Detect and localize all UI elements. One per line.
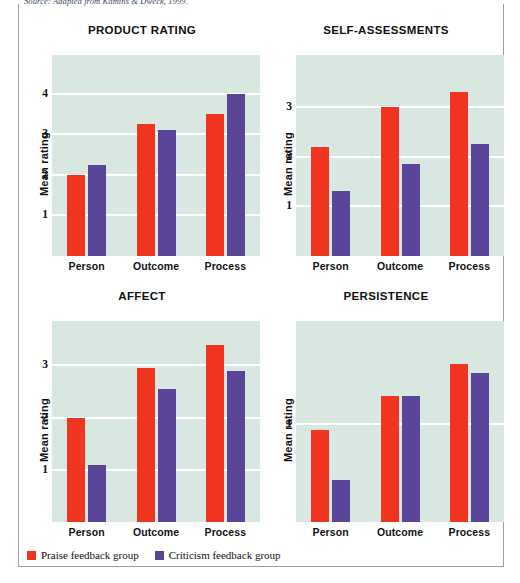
bar-person-criticism <box>332 480 350 522</box>
bar-process-praise <box>206 114 224 256</box>
panel-persistence: PERSISTENCE Mean rating Person Outcome P… <box>268 290 504 546</box>
y-tick-label: 2 <box>42 169 48 181</box>
x-label: Person <box>52 260 121 272</box>
y-tick-label: 2 <box>42 412 48 424</box>
x-label: Person <box>52 526 121 538</box>
x-label: Process <box>435 260 504 272</box>
plot-area <box>296 55 504 256</box>
bar-outcome-criticism <box>158 130 176 256</box>
y-axis-label: Mean rating <box>38 132 50 196</box>
chart-grid: PRODUCT RATING Mean rating Person Outcom… <box>0 0 520 545</box>
plot-area <box>52 321 260 522</box>
x-label: Outcome <box>365 526 434 538</box>
x-label: Process <box>191 260 260 272</box>
y-tick-label: 1 <box>42 464 48 476</box>
bar-person-praise <box>311 430 329 522</box>
x-label: Process <box>435 526 504 538</box>
plot-area <box>296 321 504 522</box>
bar-process-criticism <box>471 373 489 522</box>
legend-label: Criticism feedback group <box>169 549 281 561</box>
y-tick-label: 1 <box>286 418 292 430</box>
y-tick-label: 4 <box>42 88 48 100</box>
x-axis-labels: Person Outcome Process <box>52 260 260 272</box>
y-tick-label: 3 <box>42 128 48 140</box>
bar-person-praise <box>67 418 85 522</box>
bar-person-criticism <box>332 191 350 256</box>
y-axis-label: Mean rating <box>282 132 294 196</box>
x-label: Outcome <box>121 526 190 538</box>
y-tick-label: 3 <box>42 360 48 372</box>
y-tick-label: 2 <box>286 151 292 163</box>
bar-person-criticism <box>88 165 106 256</box>
gridline <box>296 106 504 108</box>
praise-swatch-icon <box>27 551 36 560</box>
bar-outcome-criticism <box>402 396 420 522</box>
legend-item-criticism: Criticism feedback group <box>155 549 281 561</box>
bar-process-criticism <box>227 371 245 522</box>
bar-outcome-praise <box>381 107 399 256</box>
y-tick-label: 3 <box>286 101 292 113</box>
bar-process-criticism <box>471 144 489 256</box>
panel-self-assessments: SELF-ASSESSMENTS Mean rating Person Outc… <box>268 24 504 280</box>
panel-title: SELF-ASSESSMENTS <box>268 24 504 36</box>
y-axis-label: Mean rating <box>282 398 294 462</box>
bar-person-praise <box>67 175 85 256</box>
x-label: Outcome <box>121 260 190 272</box>
plot-area <box>52 55 260 256</box>
y-tick-label: 1 <box>286 201 292 213</box>
bar-outcome-praise <box>137 124 155 256</box>
bar-process-praise <box>450 92 468 256</box>
legend: Praise feedback group Criticism feedback… <box>27 549 281 561</box>
bar-outcome-criticism <box>158 389 176 522</box>
bar-outcome-criticism <box>402 164 420 256</box>
x-label: Person <box>296 260 365 272</box>
panel-affect: AFFECT Mean rating Person Outcome Proces… <box>24 290 260 546</box>
criticism-swatch-icon <box>155 551 164 560</box>
bar-outcome-praise <box>137 368 155 522</box>
bar-process-criticism <box>227 94 245 256</box>
bar-outcome-praise <box>381 396 399 522</box>
panel-title: PERSISTENCE <box>268 290 504 302</box>
bar-person-criticism <box>88 465 106 522</box>
panel-product-rating: PRODUCT RATING Mean rating Person Outcom… <box>24 24 260 280</box>
bar-process-praise <box>206 345 224 523</box>
panel-title: PRODUCT RATING <box>24 24 260 36</box>
bar-person-praise <box>311 147 329 256</box>
x-label: Person <box>296 526 365 538</box>
bar-process-praise <box>450 364 468 522</box>
y-axis-label: Mean rating <box>38 398 50 462</box>
x-axis-labels: Person Outcome Process <box>52 526 260 538</box>
legend-item-praise: Praise feedback group <box>27 549 139 561</box>
y-tick-label: 1 <box>42 210 48 222</box>
gridline <box>52 364 260 366</box>
panel-title: AFFECT <box>24 290 260 302</box>
x-label: Outcome <box>365 260 434 272</box>
x-axis-labels: Person Outcome Process <box>296 260 504 272</box>
x-axis-labels: Person Outcome Process <box>296 526 504 538</box>
x-label: Process <box>191 526 260 538</box>
legend-label: Praise feedback group <box>41 549 139 561</box>
